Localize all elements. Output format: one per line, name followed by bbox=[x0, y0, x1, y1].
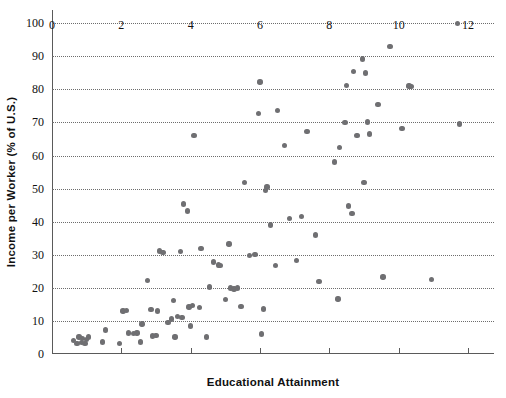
gridline-y-70 bbox=[52, 122, 494, 123]
data-point bbox=[238, 304, 243, 309]
y-axis-label-text: Income per Worker (% of U.S.) bbox=[5, 97, 17, 267]
y-tick-label: 20 bbox=[32, 280, 44, 295]
data-point bbox=[332, 159, 337, 164]
x-tick-label-4: 4 bbox=[188, 18, 194, 33]
gridline-y-80 bbox=[52, 89, 494, 90]
data-point bbox=[198, 246, 203, 251]
x-axis-label: Educational Attainment bbox=[52, 376, 494, 388]
y-tick-label: 90 bbox=[32, 49, 44, 64]
data-point bbox=[261, 306, 266, 311]
plot-area: 0102030405060708090100 024681012 bbox=[52, 10, 494, 354]
gridline-y-40 bbox=[52, 222, 494, 223]
x-tick-label-12: 12 bbox=[462, 18, 474, 33]
y-tick-label: 10 bbox=[32, 313, 44, 328]
data-point bbox=[204, 334, 209, 339]
data-point bbox=[380, 274, 385, 279]
data-point bbox=[335, 296, 340, 301]
y-tick-label: 50 bbox=[32, 181, 44, 196]
data-point bbox=[148, 307, 153, 312]
x-tick-label-6: 6 bbox=[257, 18, 263, 33]
x-tick-label-0: 0 bbox=[49, 18, 55, 33]
data-point bbox=[361, 180, 366, 185]
y-tick-label: 30 bbox=[32, 247, 44, 262]
x-tick-mark-12 bbox=[468, 348, 469, 354]
data-point bbox=[153, 333, 158, 338]
data-point bbox=[217, 263, 222, 268]
scatter-plot-figure: Income per Worker (% of U.S.) 0102030405… bbox=[0, 0, 506, 398]
x-tick-mark-6 bbox=[260, 348, 261, 354]
data-point bbox=[139, 321, 144, 326]
data-point bbox=[399, 126, 404, 131]
data-point bbox=[252, 252, 257, 257]
data-point bbox=[188, 323, 193, 328]
y-tick-label: 0 bbox=[38, 347, 44, 362]
data-point bbox=[179, 315, 184, 320]
y-tick-label: 80 bbox=[32, 82, 44, 97]
x-tick-label-8: 8 bbox=[326, 18, 332, 33]
data-point bbox=[86, 334, 91, 339]
data-point bbox=[316, 279, 321, 284]
y-tick-label: 40 bbox=[32, 214, 44, 229]
data-point bbox=[257, 79, 262, 84]
data-point bbox=[235, 285, 240, 290]
x-tick-label-10: 10 bbox=[393, 18, 405, 33]
data-point bbox=[375, 102, 380, 107]
data-point bbox=[457, 121, 462, 126]
data-point bbox=[387, 44, 392, 49]
data-point bbox=[367, 131, 372, 136]
x-tick-mark-4 bbox=[191, 348, 192, 354]
x-tick-mark-8 bbox=[329, 348, 330, 354]
data-point bbox=[408, 84, 413, 89]
x-tick-mark-2 bbox=[121, 348, 122, 354]
data-point bbox=[268, 222, 273, 227]
gridline-y-10 bbox=[52, 321, 494, 322]
data-point bbox=[138, 339, 143, 344]
gridline-y-30 bbox=[52, 255, 494, 256]
data-point bbox=[342, 120, 347, 125]
data-point bbox=[181, 201, 186, 206]
data-point bbox=[349, 211, 354, 216]
gridline-y-60 bbox=[52, 156, 494, 157]
data-point bbox=[134, 330, 139, 335]
x-tick-mark-10 bbox=[399, 348, 400, 354]
data-point bbox=[171, 298, 176, 303]
y-axis-label: Income per Worker (% of U.S.) bbox=[2, 10, 20, 354]
data-point bbox=[160, 250, 165, 255]
x-tick-label-2: 2 bbox=[118, 18, 124, 33]
data-point bbox=[346, 203, 351, 208]
data-point bbox=[363, 70, 368, 75]
y-tick-label: 60 bbox=[32, 148, 44, 163]
gridline-y-20 bbox=[52, 288, 494, 289]
plot-axes-frame bbox=[52, 10, 494, 354]
data-point bbox=[100, 339, 105, 344]
data-point bbox=[169, 316, 174, 321]
data-point bbox=[360, 56, 365, 61]
data-point bbox=[365, 119, 370, 124]
data-point bbox=[145, 278, 150, 283]
data-point bbox=[256, 111, 261, 116]
data-point bbox=[313, 232, 318, 237]
data-point bbox=[264, 184, 269, 189]
gridline-y-90 bbox=[52, 56, 494, 57]
gridline-y-50 bbox=[52, 189, 494, 190]
data-point bbox=[304, 129, 309, 134]
y-tick-label: 70 bbox=[32, 115, 44, 130]
data-point bbox=[172, 334, 177, 339]
y-tick-label: 100 bbox=[26, 16, 44, 31]
data-point bbox=[226, 241, 231, 246]
data-point bbox=[185, 208, 190, 213]
